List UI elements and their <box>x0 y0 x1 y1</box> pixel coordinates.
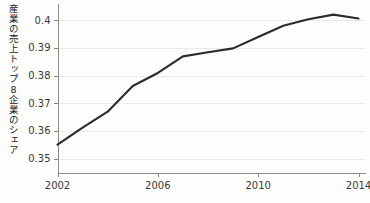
x-tick-labels-group: 2002200620102014 <box>45 180 370 191</box>
x-tick-label-3: 2014 <box>346 180 370 191</box>
y-tick-label-5: 0.4 <box>35 15 51 26</box>
y-tick-label-0: 0.35 <box>28 153 50 164</box>
y-tick-labels-group: 0.350.360.370.380.390.4 <box>28 15 50 164</box>
gridlines-group <box>58 21 365 160</box>
x-tick-label-0: 2002 <box>45 180 70 191</box>
tick-marks-group <box>54 21 360 178</box>
chart-screenshot: 産業の売上トップ8企業のシェア 0.350.360.370.380.390.4 … <box>0 0 370 203</box>
y-tick-label-4: 0.39 <box>28 42 50 53</box>
y-tick-label-2: 0.37 <box>28 98 50 109</box>
line-chart: 0.350.360.370.380.390.4 2002200620102014 <box>0 0 370 203</box>
x-tick-label-1: 2006 <box>145 180 170 191</box>
x-tick-label-2: 2010 <box>245 180 270 191</box>
data-series-line <box>58 15 359 145</box>
y-tick-label-1: 0.36 <box>28 125 50 136</box>
y-tick-label-3: 0.38 <box>28 70 50 81</box>
